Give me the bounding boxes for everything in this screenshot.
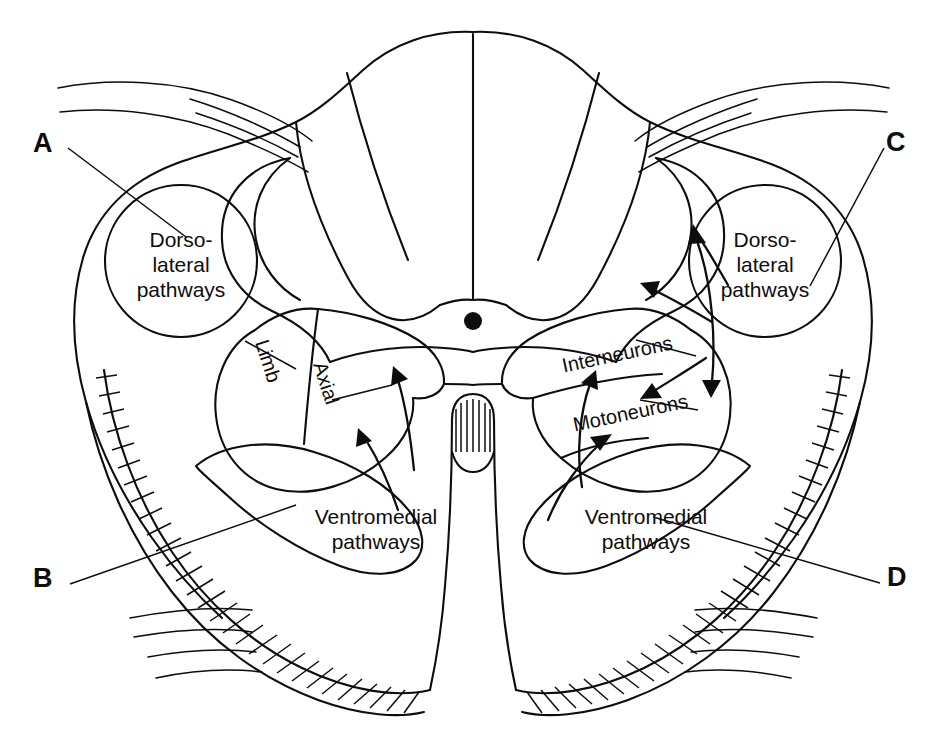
central-canal-dot: [464, 312, 482, 330]
ventromedial-left-line1: Ventromedial: [281, 505, 471, 530]
ventromedial-label-left: Ventromedial pathways: [281, 505, 471, 555]
dorsolateral-label-left: Dorso- lateral pathways: [111, 228, 251, 302]
dorsal-rootlets-right: [635, 82, 889, 172]
key-label-c: C: [886, 127, 906, 159]
key-label-d: D: [887, 562, 907, 594]
page-text-fragment: [0, 719, 947, 733]
dorsolateral-right-line3: pathways: [695, 278, 835, 303]
ventromedial-label-right: Ventromedial pathways: [551, 505, 741, 555]
dorsolateral-left-line2: lateral: [111, 253, 251, 278]
leader-B: [70, 505, 296, 584]
dorsolateral-left-line1: Dorso-: [111, 228, 251, 253]
spinal-cord-figure: A B C D Dorso- lateral pathways Dorso- l…: [0, 0, 947, 733]
dorsolateral-right-line1: Dorso-: [695, 228, 835, 253]
dorsal-column-fan: [296, 34, 650, 320]
ventromedial-left-line2: pathways: [281, 530, 471, 555]
ventromedial-arrows-right: [548, 370, 612, 520]
dorsolateral-right-line2: lateral: [695, 253, 835, 278]
dorsolateral-label-right: Dorso- lateral pathways: [695, 228, 835, 302]
dorsolateral-left-line3: pathways: [111, 278, 251, 303]
leader-A: [68, 148, 186, 237]
ventromedial-right-line2: pathways: [551, 530, 741, 555]
dorsal-rootlets-left: [58, 82, 312, 172]
key-label-a: A: [33, 128, 53, 160]
spinal-cord-drawing: [0, 0, 947, 733]
key-label-b: B: [33, 563, 53, 595]
ventromedial-right-line1: Ventromedial: [551, 505, 741, 530]
fissure-hatching: [456, 399, 490, 452]
leader-lines: [68, 148, 884, 584]
